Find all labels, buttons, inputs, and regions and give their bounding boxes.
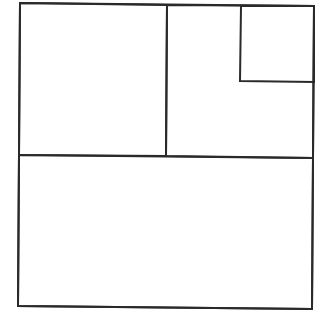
top-left-square <box>19 3 167 156</box>
subdivided-square-diagram <box>0 0 332 317</box>
small-corner-square <box>240 6 314 82</box>
bottom-rect <box>18 155 313 309</box>
